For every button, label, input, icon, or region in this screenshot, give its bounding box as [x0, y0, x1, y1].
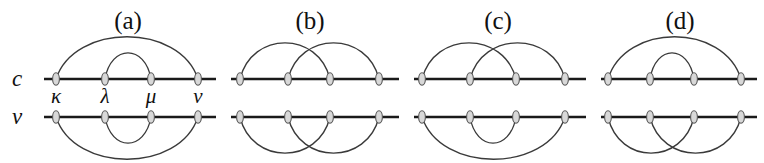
vertex-label-0: κ — [41, 86, 71, 107]
panel-c — [414, 43, 586, 159]
vertex-lower-2[interactable] — [691, 111, 698, 123]
vertex-label-1: λ — [90, 86, 120, 107]
interaction-arc-lower-0 — [56, 117, 198, 159]
vertex-label-3: ν — [183, 86, 213, 107]
vertex-upper-3[interactable] — [376, 73, 383, 85]
vertex-lower-0[interactable] — [237, 111, 244, 123]
vertex-upper-1[interactable] — [467, 73, 474, 85]
vertex-upper-2[interactable] — [691, 73, 698, 85]
panel-d — [601, 37, 757, 153]
vertex-lower-0[interactable] — [419, 111, 426, 123]
interaction-arc-lower-1 — [470, 117, 516, 143]
vertex-upper-0[interactable] — [237, 73, 244, 85]
vertex-upper-0[interactable] — [419, 73, 426, 85]
vertex-lower-1[interactable] — [102, 111, 109, 123]
vertex-upper-2[interactable] — [327, 73, 334, 85]
panel-caption: (b) — [280, 8, 340, 33]
vertex-upper-0[interactable] — [605, 73, 612, 85]
vertex-lower-1[interactable] — [647, 111, 654, 123]
vertex-upper-3[interactable] — [738, 73, 745, 85]
panel-caption: (a) — [98, 8, 158, 33]
interaction-arc-lower-0 — [422, 117, 565, 159]
vertex-lower-0[interactable] — [605, 111, 612, 123]
axis-label-lower: v — [12, 105, 22, 128]
vertex-upper-2[interactable] — [513, 73, 520, 85]
interaction-arc-upper-1 — [650, 53, 694, 79]
panel-caption: (d) — [650, 8, 710, 33]
interaction-arc-upper-1 — [288, 43, 379, 79]
interaction-arc-upper-0 — [56, 37, 198, 79]
vertex-lower-1[interactable] — [467, 111, 474, 123]
vertex-lower-2[interactable] — [513, 111, 520, 123]
vertex-lower-1[interactable] — [285, 111, 292, 123]
interaction-arc-upper-0 — [240, 43, 330, 79]
panel-caption: (c) — [468, 8, 528, 33]
axis-label-upper: c — [12, 67, 22, 90]
vertex-upper-1[interactable] — [647, 73, 654, 85]
interaction-arc-lower-1 — [105, 117, 151, 143]
vertex-lower-2[interactable] — [148, 111, 155, 123]
vertex-lower-2[interactable] — [327, 111, 334, 123]
vertex-lower-3[interactable] — [376, 111, 383, 123]
interaction-arc-lower-0 — [240, 117, 330, 153]
interaction-arc-upper-1 — [105, 53, 151, 79]
feynman-diagram-figure: (a)κλμν(b)(c)(d)cv — [0, 0, 764, 163]
vertex-lower-3[interactable] — [738, 111, 745, 123]
vertex-lower-3[interactable] — [562, 111, 569, 123]
vertex-label-2: μ — [136, 86, 166, 107]
vertex-upper-1[interactable] — [285, 73, 292, 85]
interaction-arc-lower-1 — [288, 117, 379, 153]
vertex-lower-3[interactable] — [195, 111, 202, 123]
vertex-lower-0[interactable] — [53, 111, 60, 123]
interaction-arc-upper-0 — [608, 37, 741, 79]
panel-b — [231, 43, 399, 153]
vertex-upper-3[interactable] — [562, 73, 569, 85]
